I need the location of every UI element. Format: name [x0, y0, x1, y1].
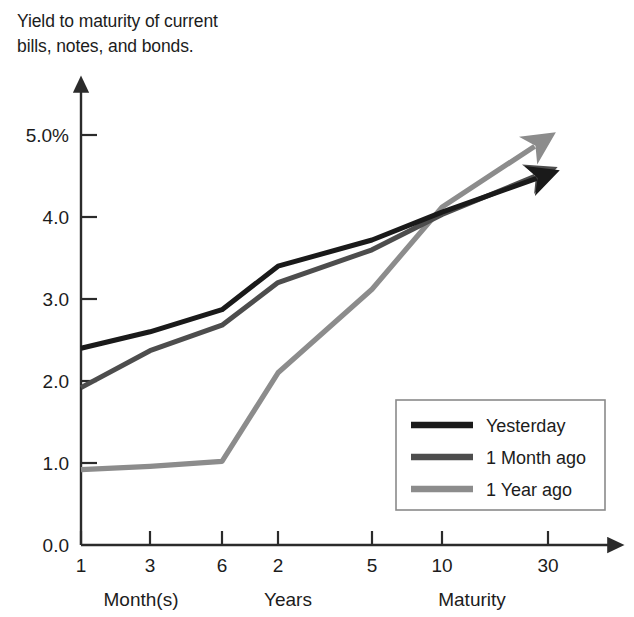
- series-line-1-month-ago: [81, 176, 535, 387]
- chart-canvas: 5.0% 4.0 3.0 2.0 1.0 0.0 1 3 6 2 5 10 30…: [0, 0, 634, 617]
- x-tick-label-1mo: 1: [76, 555, 87, 576]
- x-group-label-years: Years: [264, 589, 312, 610]
- y-tick-label-3: 3.0: [43, 289, 69, 310]
- yield-curve-chart: Yield to maturity of current bills, note…: [0, 0, 634, 617]
- y-tick-label-5: 5.0%: [26, 125, 69, 146]
- x-tick-label-5yr: 5: [367, 555, 378, 576]
- y-tick-label-2: 2.0: [43, 371, 69, 392]
- legend-label-1-year-ago: 1 Year ago: [486, 480, 572, 500]
- x-axis-ticks: [81, 531, 548, 545]
- y-tick-label-4: 4.0: [43, 207, 69, 228]
- x-tick-label-30yr: 30: [537, 555, 558, 576]
- legend-label-1-month-ago: 1 Month ago: [486, 448, 586, 468]
- series-line-yesterday: [81, 178, 537, 348]
- x-tick-label-2yr: 2: [273, 555, 284, 576]
- legend-label-yesterday: Yesterday: [486, 416, 565, 436]
- y-axis-ticks: [81, 135, 97, 463]
- y-tick-label-1: 1.0: [43, 453, 69, 474]
- x-tick-label-6mo: 6: [217, 555, 228, 576]
- x-axis-title-maturity: Maturity: [438, 589, 506, 610]
- y-tick-label-0: 0.0: [43, 535, 69, 556]
- chart-legend: Yesterday 1 Month ago 1 Year ago: [396, 400, 605, 510]
- x-group-label-months: Month(s): [104, 589, 179, 610]
- x-tick-label-3mo: 3: [145, 555, 156, 576]
- x-tick-label-10yr: 10: [431, 555, 452, 576]
